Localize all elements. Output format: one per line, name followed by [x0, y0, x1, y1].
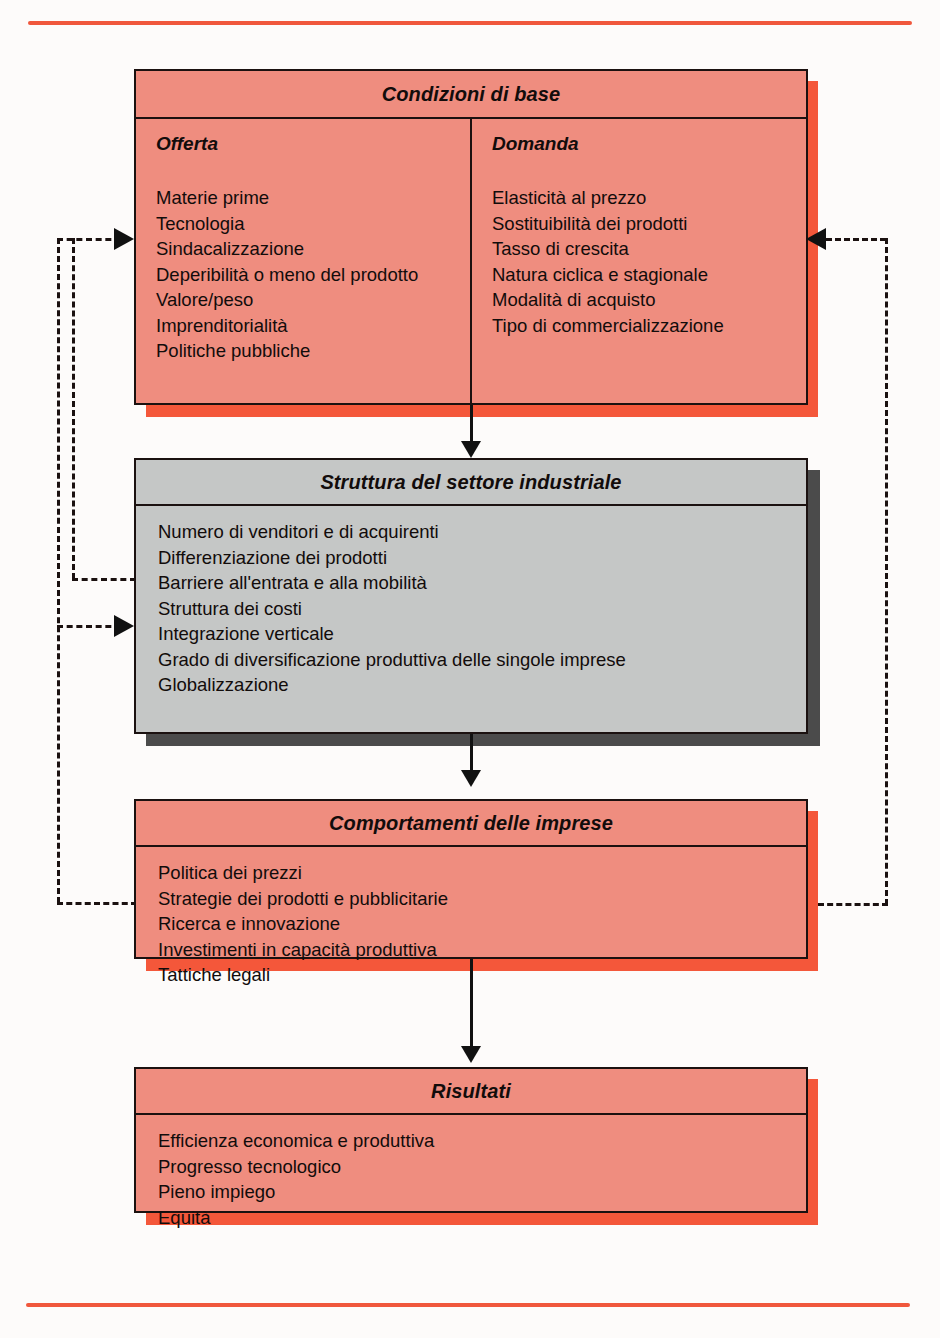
flow-connector-1-arrowhead	[461, 441, 481, 458]
flow-connector-2-line	[470, 734, 473, 773]
list-item: Differenziazione dei prodotti	[158, 545, 806, 571]
structure-title: Struttura del settore industriale	[136, 460, 806, 506]
list-item: Integrazione verticale	[158, 621, 806, 647]
feedback-right-arrowhead	[806, 228, 826, 250]
list-item: Ricerca e innovazione	[158, 911, 806, 937]
list-item: Sostituibilità dei prodotti	[492, 211, 806, 237]
list-item: Grado di diversificazione produttiva del…	[158, 647, 806, 673]
structure-body: Numero di venditori e di acquirenti Diff…	[136, 506, 806, 734]
list-item: Materie prime	[156, 185, 470, 211]
feedback-left-inner-vertical-segment	[72, 238, 75, 579]
flow-connector-2-arrowhead	[461, 770, 481, 787]
performance-item-list: Efficienza economica e produttiva Progre…	[158, 1128, 806, 1230]
list-item: Barriere all'entrata e alla mobilità	[158, 570, 806, 596]
conduct-title: Comportamenti delle imprese	[136, 801, 806, 847]
performance-box[interactable]: Risultati Efficienza economica e produtt…	[134, 1067, 808, 1213]
feedback-left-outer-vertical-segment	[57, 238, 60, 903]
list-item: Equità	[158, 1205, 806, 1231]
domanda-item-list: Elasticità al prezzo Sostituibilità dei …	[492, 185, 806, 338]
base-conditions-column-domanda: Domanda Elasticità al prezzo Sostituibil…	[472, 119, 806, 405]
conduct-box[interactable]: Comportamenti delle imprese Politica dei…	[134, 799, 808, 959]
list-item: Pieno impiego	[158, 1179, 806, 1205]
top-rule	[28, 21, 912, 25]
list-item: Tasso di crescita	[492, 236, 806, 262]
feedback-left-outer-top-segment	[57, 238, 121, 241]
list-item: Strategie dei prodotti e pubblicitarie	[158, 886, 806, 912]
feedback-left-inner-bottom-segment	[72, 578, 136, 581]
feedback-left-outer-arrowhead	[114, 228, 134, 250]
list-item: Imprenditorialità	[156, 313, 470, 339]
list-item: Numero di venditori e di acquirenti	[158, 519, 806, 545]
flow-connector-1-line	[470, 405, 473, 444]
flow-connector-3-arrowhead	[461, 1046, 481, 1063]
column-heading-domanda: Domanda	[492, 133, 806, 155]
structure-box[interactable]: Struttura del settore industriale Numero…	[134, 458, 808, 734]
conduct-body: Politica dei prezzi Strategie dei prodot…	[136, 847, 806, 959]
list-item: Progresso tecnologico	[158, 1154, 806, 1180]
list-item: Natura ciclica e stagionale	[492, 262, 806, 288]
base-conditions-body: Offerta Materie prime Tecnologia Sindaca…	[136, 119, 806, 405]
feedback-left-outer-bottom-segment	[57, 902, 137, 905]
list-item: Struttura dei costi	[158, 596, 806, 622]
list-item: Modalità di acquisto	[492, 287, 806, 313]
conduct-item-list: Politica dei prezzi Strategie dei prodot…	[158, 860, 806, 988]
figure-canvas: Condizioni di base Offerta Materie prime…	[0, 0, 940, 1338]
list-item: Politica dei prezzi	[158, 860, 806, 886]
list-item: Investimenti in capacità produttiva	[158, 937, 806, 963]
structure-item-list: Numero di venditori e di acquirenti Diff…	[158, 519, 806, 698]
offerta-item-list: Materie prime Tecnologia Sindacalizzazio…	[156, 185, 470, 364]
performance-body: Efficienza economica e produttiva Progre…	[136, 1115, 806, 1213]
list-item: Efficienza economica e produttiva	[158, 1128, 806, 1154]
feedback-right-vertical-segment	[885, 238, 888, 905]
list-item: Sindacalizzazione	[156, 236, 470, 262]
feedback-left-structure-arrowhead	[114, 615, 134, 637]
list-item: Tipo di commercializzazione	[492, 313, 806, 339]
list-item: Valore/peso	[156, 287, 470, 313]
feedback-left-structure-segment	[57, 625, 121, 628]
list-item: Tecnologia	[156, 211, 470, 237]
list-item: Politiche pubbliche	[156, 338, 470, 364]
feedback-right-top-segment	[826, 238, 886, 241]
list-item: Deperibilità o meno del prodotto	[156, 262, 470, 288]
column-heading-offerta: Offerta	[156, 133, 470, 155]
base-conditions-box[interactable]: Condizioni di base Offerta Materie prime…	[134, 69, 808, 405]
list-item: Tattiche legali	[158, 962, 806, 988]
list-item: Globalizzazione	[158, 672, 806, 698]
performance-title: Risultati	[136, 1069, 806, 1115]
list-item: Elasticità al prezzo	[492, 185, 806, 211]
base-conditions-column-offerta: Offerta Materie prime Tecnologia Sindaca…	[136, 119, 472, 405]
bottom-rule	[26, 1303, 910, 1307]
base-conditions-title: Condizioni di base	[136, 71, 806, 119]
feedback-right-bottom-segment	[818, 903, 888, 906]
